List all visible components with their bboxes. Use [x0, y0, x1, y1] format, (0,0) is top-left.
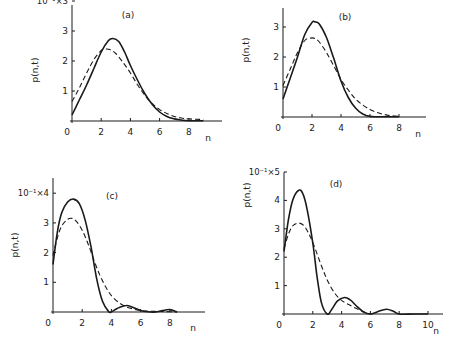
x-tick-label: 8 — [167, 318, 173, 328]
panel-title: (c) — [106, 191, 118, 201]
x-tick-label: 4 — [128, 127, 134, 137]
x-tick-label: 8 — [396, 123, 402, 133]
x-axis-label: n — [415, 129, 421, 139]
x-tick-label: 0 — [64, 127, 70, 137]
x-tick-label: 8 — [396, 320, 402, 330]
panel-title: (a) — [122, 10, 135, 20]
panel-title: (b) — [339, 12, 352, 22]
x-tick-label: 2 — [310, 320, 316, 330]
y-tick-label: 3 — [62, 26, 68, 36]
series-dashed-line — [284, 223, 370, 314]
y-tick-label: 3 — [274, 224, 280, 234]
y-tick-label: 1 — [274, 281, 280, 291]
series-dashed-line — [53, 218, 177, 312]
series-solid-line — [72, 38, 203, 120]
x-tick-label: 4 — [339, 320, 345, 330]
x-tick-label: 6 — [368, 320, 374, 330]
y-scale-label: 10⁻¹×5 — [249, 167, 280, 177]
x-tick-label: 4 — [109, 318, 115, 328]
y-tick-label: 4 — [274, 195, 280, 205]
panel-d: 0246810123410⁻¹×5(d)p(n,t)n — [242, 167, 443, 336]
x-tick-label: 6 — [157, 127, 163, 137]
x-tick-label: 0 — [45, 318, 51, 328]
panel-a: 0246812310⁻¹×3(a)p(n,t)n — [30, 0, 222, 143]
series-solid-line — [283, 21, 399, 116]
figure: 0246812310⁻¹×3(a)p(n,t)n 0246812310⁻¹×3(… — [0, 0, 451, 342]
x-tick-label: 8 — [186, 127, 192, 137]
x-tick-label: 0 — [276, 320, 282, 330]
x-tick-label: 2 — [98, 127, 104, 137]
y-axis-label: p(n,t) — [241, 38, 251, 63]
y-tick-label: 2 — [273, 52, 279, 62]
y-tick-label: 2 — [274, 252, 280, 262]
x-tick-label: 4 — [338, 123, 344, 133]
x-axis-label: n — [205, 133, 211, 143]
panel-c: 0246812310⁻¹×4(c)p(n,t)n — [10, 178, 205, 333]
series-dashed-line — [72, 49, 203, 120]
x-axis-label: n — [433, 326, 439, 336]
y-tick-label: 2 — [62, 56, 68, 66]
series-solid-line — [284, 190, 428, 314]
y-axis-label: p(n,t) — [30, 58, 40, 83]
x-tick-label: 6 — [138, 318, 144, 328]
y-scale-label: 10⁻¹×4 — [18, 188, 49, 198]
y-tick-label: 1 — [62, 86, 68, 96]
x-axis-label: n — [190, 323, 196, 333]
y-tick-label: 3 — [273, 22, 279, 32]
y-scale-label: 10⁻¹×3 — [37, 0, 68, 6]
panel-title: (d) — [330, 179, 343, 189]
y-tick-label: 3 — [43, 218, 49, 228]
x-tick-label: 0 — [275, 123, 281, 133]
y-tick-label: 1 — [273, 82, 279, 92]
y-scale-label: 10⁻¹×3 — [248, 0, 279, 2]
x-tick-label: 2 — [79, 318, 85, 328]
x-tick-label: 2 — [309, 123, 315, 133]
panel-b: 0246812310⁻¹×3(b)p(n,t)n — [241, 0, 426, 139]
y-tick-label: 2 — [43, 248, 49, 258]
y-tick-label: 1 — [43, 277, 49, 287]
x-tick-label: 6 — [367, 123, 373, 133]
y-axis-label: p(n,t) — [242, 183, 252, 208]
series-solid-line — [53, 199, 177, 312]
y-axis-label: p(n,t) — [10, 233, 20, 258]
